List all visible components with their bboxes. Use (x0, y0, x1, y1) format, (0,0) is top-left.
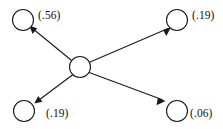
node-label-bottom-left: (.19) (46, 107, 69, 120)
edge-line-center-to-top-right (89, 29, 168, 63)
node-top-right[interactable] (167, 10, 188, 31)
edge-center-to-top-right (89, 27, 171, 62)
edge-center-to-bottom-right (89, 73, 165, 106)
edges-group (29, 26, 171, 105)
node-label-top-left: (.56) (38, 9, 61, 22)
node-top-left[interactable] (13, 10, 34, 31)
edge-center-to-bottom-left (34, 75, 73, 104)
edge-line-center-to-bottom-right (89, 73, 162, 100)
path-diagram-container: (.56) (.19) (.19) (.06) (0, 0, 223, 129)
node-label-top-right: (.19) (192, 9, 215, 22)
edge-center-to-top-left (29, 26, 71, 61)
node-labels-group: (.56) (.19) (.19) (.06) (38, 9, 215, 120)
node-center[interactable] (70, 57, 91, 78)
node-bottom-right[interactable] (167, 101, 188, 122)
nodes-group (13, 10, 188, 122)
arrowhead-bottom-left-icon (34, 96, 42, 104)
edge-line-center-to-bottom-left (37, 75, 73, 102)
edge-line-center-to-top-left (32, 28, 72, 61)
node-label-bottom-right: (.06) (190, 107, 213, 120)
path-diagram-canvas: (.56) (.19) (.19) (.06) (0, 0, 223, 129)
node-bottom-left[interactable] (14, 101, 35, 122)
